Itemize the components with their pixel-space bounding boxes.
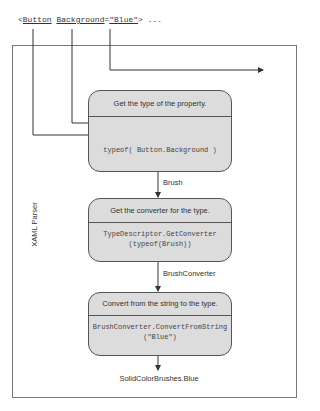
step-output-label: Brush [163, 178, 183, 187]
step-title: Get the converter for the type. [89, 199, 231, 223]
step-box-get-type: Get the type of the property. typeof( Bu… [88, 90, 232, 172]
step-code-line2: ("Blue") [89, 332, 231, 342]
step-code: typeof( Button.Background ) [89, 145, 231, 155]
step-title: Convert from the string to the type. [89, 293, 231, 316]
step-title: Get the type of the property. [89, 91, 231, 117]
step-code-line1: BrushConverter.ConvertFromString [89, 322, 231, 332]
step-output-label: BrushConverter [163, 269, 216, 278]
step-code-line1: TypeDescriptor.GetConverter [89, 229, 231, 239]
step-box-get-converter: Get the converter for the type. TypeDesc… [88, 198, 232, 262]
step-box-convert: Convert from the string to the type. Bru… [88, 292, 232, 356]
final-output-label: SolidColorBrushes.Blue [114, 374, 204, 383]
step-code-line2: (typeof(Brush)) [89, 239, 231, 249]
